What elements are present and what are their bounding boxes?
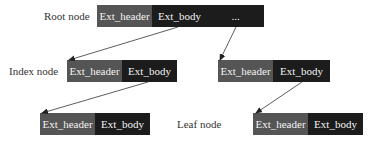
arrow-root-to-index-left: [69, 27, 178, 60]
arrow-index-left-to-leaf-left: [42, 82, 148, 113]
btree-extent-diagram: Root node Index node Leaf node Ext_heade…: [0, 0, 374, 150]
arrows-layer: [0, 0, 374, 150]
arrow-index-right-to-leaf-right: [256, 82, 302, 113]
arrow-root-to-index-right: [220, 27, 236, 60]
